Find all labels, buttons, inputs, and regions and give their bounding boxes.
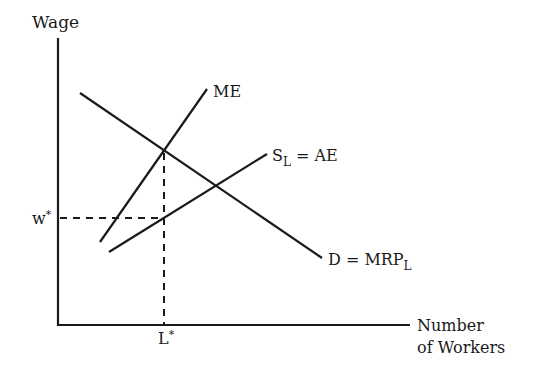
demand-label-main: D = MRP — [328, 250, 404, 269]
supply-label-main: S — [272, 146, 283, 165]
wage-star-label: w* — [32, 208, 52, 228]
labor-star-label: L* — [158, 328, 175, 348]
labor-star-sup: * — [169, 328, 175, 341]
x-axis-label-line1: Number — [417, 316, 484, 335]
labor-star-main: L — [158, 329, 169, 348]
x-axis-label-line2: of Workers — [417, 338, 505, 357]
demand-mrp-curve — [80, 93, 322, 258]
me-curve — [100, 89, 207, 242]
monopsony-diagram: Wage Number of Workers ME SL = AE D = MR… — [0, 0, 536, 380]
demand-label-sub: L — [404, 259, 412, 273]
wage-star-sup: * — [46, 208, 52, 221]
supply-label: SL = AE — [272, 146, 338, 169]
supply-label-sub: L — [283, 155, 291, 169]
wage-star-main: w — [32, 209, 46, 228]
me-label: ME — [213, 82, 241, 101]
demand-label: D = MRPL — [328, 250, 412, 273]
supply-ae-curve — [109, 154, 267, 252]
supply-label-rest: = AE — [291, 146, 338, 165]
y-axis-label: Wage — [32, 12, 79, 32]
